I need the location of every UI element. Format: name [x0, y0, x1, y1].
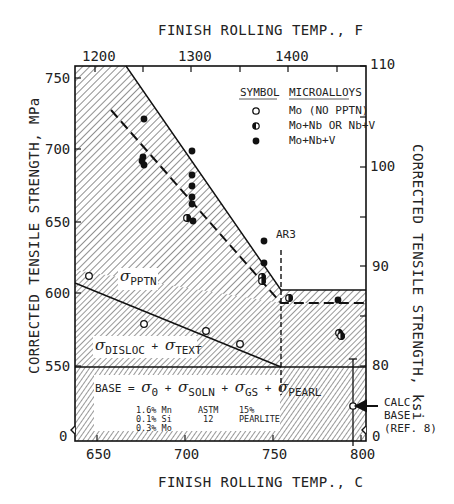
- pearlite-note: 15% PEARLITE: [239, 406, 280, 424]
- top-ticks: [95, 66, 337, 72]
- calc-base-label: CALC. BASE (REF. 8): [384, 396, 437, 435]
- left-tick-0: 0: [59, 428, 67, 444]
- left-axis-title: CORRECTED TENSILE STRENGTH, MPa: [26, 97, 42, 374]
- astm-note: ASTM 12: [198, 406, 218, 424]
- legend-header-symbol: SYMBOL: [240, 86, 280, 99]
- base-formula: BASE = σ0 + σSOLN + σGS + σPEARL: [95, 378, 321, 396]
- left-tick-600: 600: [45, 285, 70, 301]
- ar3-label: AR3: [276, 228, 296, 241]
- left-tick-700: 700: [45, 141, 70, 157]
- left-tick-550: 550: [45, 358, 70, 374]
- composition-note: 1.6% Mn 0.1% Si 0.3% Mo: [136, 406, 172, 433]
- pptn-label: σPPTN: [120, 266, 157, 285]
- top-axis-title: FINISH ROLLING TEMP., F: [158, 22, 363, 38]
- legend-filled-icon: [253, 138, 260, 145]
- bottom-tick-700: 700: [174, 446, 199, 462]
- bottom-axis-title: FINISH ROLLING TEMP., C: [158, 474, 363, 490]
- disloc-text-label: σDISLOC + σTEXT: [95, 335, 202, 354]
- legend-item-mo: Mo (NO PPTN): [289, 104, 368, 117]
- legend-header-microalloys: MICROALLOYS: [289, 86, 362, 99]
- right-tick-110: 110: [370, 56, 395, 72]
- right-axis-title: CORRECTED TENSILE STRENGTH, ksi: [410, 144, 426, 421]
- top-tick-1400: 1400: [275, 48, 309, 64]
- right-tick-100: 100: [370, 158, 395, 174]
- bottom-tick-750: 750: [262, 446, 287, 462]
- legend-item-mo-nb-v: Mo+Nb+V: [289, 134, 335, 147]
- top-tick-1300: 1300: [178, 48, 212, 64]
- left-tick-650: 650: [45, 214, 70, 230]
- right-tick-90: 90: [372, 258, 389, 274]
- right-tick-80: 80: [372, 357, 389, 373]
- bottom-tick-800: 800: [350, 446, 375, 462]
- legend-item-mo-nb: Mo+Nb OR Nb+V: [289, 119, 375, 132]
- pptn-region: [75, 66, 366, 303]
- left-tick-750: 750: [45, 70, 70, 86]
- left-axis-break: [71, 426, 75, 434]
- bottom-tick-650: 650: [86, 446, 111, 462]
- right-tick-0: 0: [372, 428, 380, 444]
- top-tick-1200: 1200: [82, 48, 116, 64]
- legend-open-icon: [253, 108, 259, 114]
